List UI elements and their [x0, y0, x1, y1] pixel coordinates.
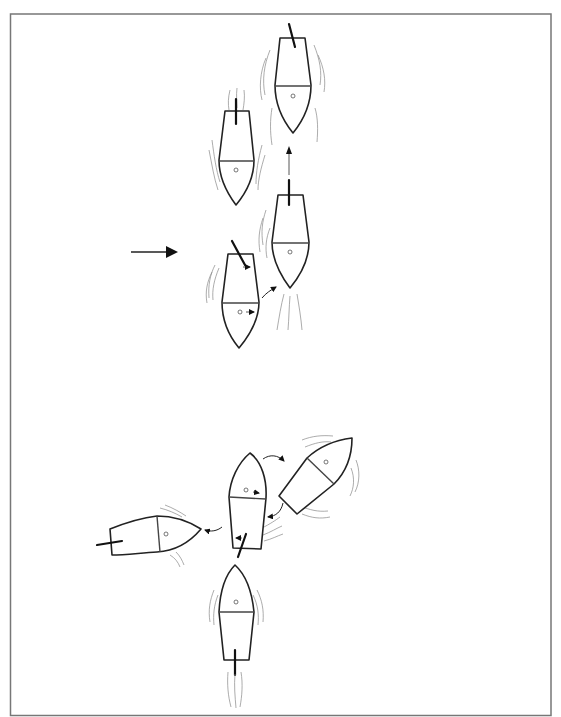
- boat-e: [229, 453, 283, 557]
- arrow-f-to-e: [268, 503, 283, 517]
- arrow-e-to-g: [205, 527, 222, 531]
- boat-g: [97, 505, 201, 567]
- boat-d: [206, 241, 259, 348]
- arrow-c-to-a: [286, 146, 292, 175]
- boat-c: [259, 180, 309, 330]
- main-arrow-icon: [131, 246, 178, 258]
- boat-b: [209, 88, 265, 205]
- arrow-e-to-f: [263, 456, 284, 461]
- arrow-d-to-c: [262, 287, 276, 298]
- boat-f: [279, 436, 359, 518]
- boat-maneuver-diagram: [0, 0, 561, 717]
- page-border: [11, 14, 552, 716]
- boat-a: [260, 24, 324, 145]
- boat-h: [209, 565, 263, 708]
- diagram-frame: [0, 0, 561, 717]
